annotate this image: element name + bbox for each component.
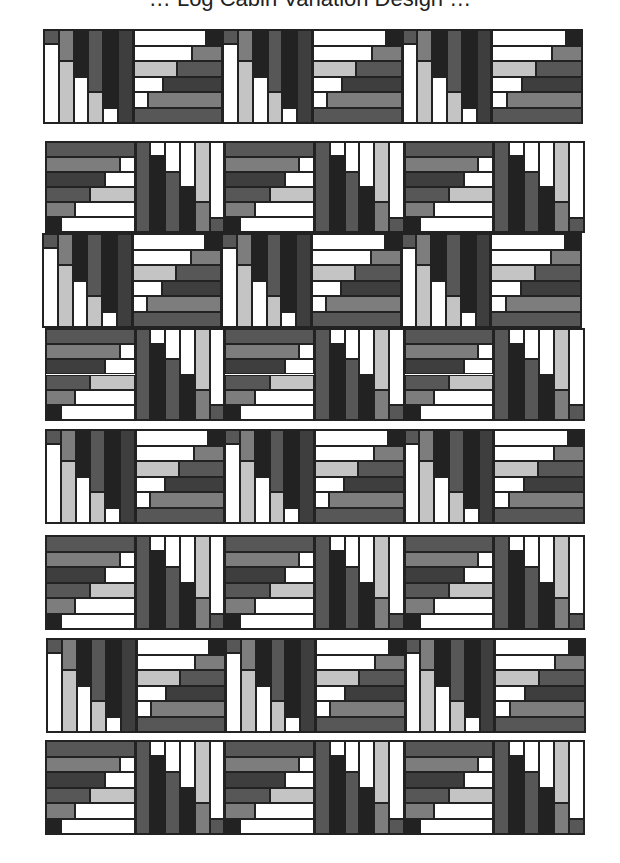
strip-piece (136, 477, 165, 493)
strip-piece (385, 234, 401, 250)
strip-piece (225, 375, 269, 390)
strip-piece (389, 218, 404, 232)
strip-piece (102, 312, 117, 327)
strip-piece (330, 551, 345, 629)
cut-off-title: … Log Cabin Variation Design … (0, 0, 620, 12)
strip-piece (554, 202, 569, 232)
strip-piece (137, 686, 166, 702)
strip-piece (405, 567, 464, 583)
strip-piece (345, 567, 360, 629)
strip-piece (405, 598, 434, 614)
strip-piece (225, 614, 240, 630)
strip-piece (359, 536, 374, 583)
strip-piece (225, 803, 254, 819)
strip-piece (447, 30, 462, 92)
strip-piece (133, 312, 222, 328)
strip-piece (554, 390, 569, 420)
strip-piece (330, 156, 345, 232)
strip-piece (494, 492, 508, 508)
strip-piece (46, 614, 61, 630)
strip-piece (240, 819, 314, 835)
strip-piece (535, 265, 581, 281)
quilt-row-7 (46, 638, 586, 733)
strip-piece (299, 757, 314, 773)
strip-piece (431, 281, 446, 328)
strip-piece (405, 788, 449, 804)
strip-piece (46, 405, 61, 420)
strip-piece (491, 265, 535, 281)
strip-piece (478, 552, 493, 568)
strip-piece (225, 172, 284, 187)
strip-piece (103, 108, 118, 123)
strip-piece (524, 477, 584, 493)
strip-piece (253, 77, 268, 124)
quilt-block-vertical (406, 639, 496, 732)
strip-piece (180, 583, 195, 630)
strip-piece (374, 741, 389, 803)
strip-piece (46, 567, 105, 583)
strip-piece (46, 788, 90, 804)
strip-piece (494, 741, 509, 834)
strip-piece (341, 281, 400, 297)
strip-piece (405, 187, 449, 202)
strip-piece (225, 405, 240, 420)
strip-piece (405, 359, 464, 374)
quilt-block-horizontal (405, 329, 495, 420)
strip-piece (435, 686, 450, 733)
strip-piece (225, 741, 314, 757)
strip-piece (419, 430, 434, 461)
strip-piece (522, 77, 582, 93)
strip-piece (449, 583, 493, 599)
strip-piece (462, 30, 477, 108)
strip-piece (270, 187, 314, 202)
strip-piece (417, 61, 432, 123)
strip-piece (133, 250, 192, 266)
strip-piece (120, 552, 135, 568)
strip-piece (494, 508, 584, 524)
strip-piece (46, 172, 105, 187)
strip-piece (405, 405, 420, 420)
strip-piece (389, 142, 404, 218)
strip-piece (465, 639, 480, 717)
strip-piece (210, 819, 225, 834)
strip-piece (389, 329, 404, 405)
strip-piece (225, 217, 240, 232)
strip-piece (150, 156, 165, 232)
strip-piece (136, 329, 151, 420)
strip-piece (136, 446, 195, 462)
strip-piece (327, 92, 401, 108)
strip-piece (389, 536, 404, 614)
strip-piece (252, 234, 267, 281)
strip-piece (446, 296, 461, 327)
quilt-row-1 (43, 29, 583, 124)
quilt-block-vertical (494, 536, 584, 629)
strip-piece (450, 701, 465, 732)
strip-piece (77, 639, 92, 686)
strip-piece (91, 639, 106, 701)
strip-piece (374, 598, 389, 629)
quilt-block-horizontal (136, 430, 226, 523)
strip-piece (569, 819, 584, 834)
strip-piece (569, 536, 584, 614)
strip-piece (539, 536, 554, 583)
strip-piece (177, 61, 222, 77)
strip-piece (210, 536, 225, 614)
strip-piece (73, 234, 88, 281)
strip-piece (359, 670, 404, 686)
strip-piece (315, 329, 330, 420)
strip-piece (59, 30, 74, 61)
strip-piece (405, 157, 479, 172)
strip-piece (315, 492, 329, 508)
strip-piece (105, 772, 134, 788)
strip-piece (434, 803, 493, 819)
strip-piece (281, 312, 296, 327)
strip-piece (480, 639, 495, 732)
strip-piece (195, 329, 210, 390)
quilt-block-horizontal (46, 142, 136, 232)
strip-piece (524, 772, 539, 834)
strip-piece (225, 536, 314, 552)
strip-piece (226, 653, 241, 732)
strip-piece (180, 788, 195, 835)
strip-piece (538, 461, 584, 477)
strip-piece (299, 552, 314, 568)
